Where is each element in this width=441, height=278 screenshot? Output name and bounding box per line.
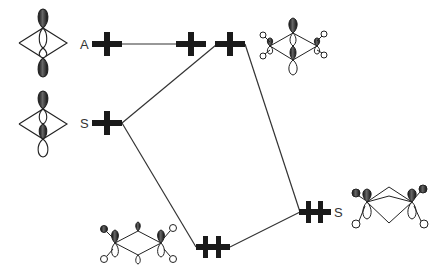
label-S-left: S	[80, 116, 89, 131]
mo-diagram: A S S	[0, 0, 441, 278]
level-upper-middle	[176, 32, 206, 56]
level-lower-middle	[196, 236, 230, 258]
label-S-right: S	[334, 205, 343, 220]
level-S-right	[299, 201, 331, 223]
orbital-S-icon	[19, 91, 67, 157]
level-A-left	[92, 32, 122, 56]
label-A: A	[80, 37, 89, 52]
correlation-lines	[122, 44, 300, 247]
orbital-upper-right-icon	[260, 18, 327, 75]
orbital-lower-middle-icon	[101, 222, 177, 264]
level-S-left	[92, 111, 122, 135]
orbital-S-right-icon	[352, 185, 428, 228]
orbital-A-icon	[19, 9, 67, 77]
level-upper-right	[215, 32, 245, 56]
